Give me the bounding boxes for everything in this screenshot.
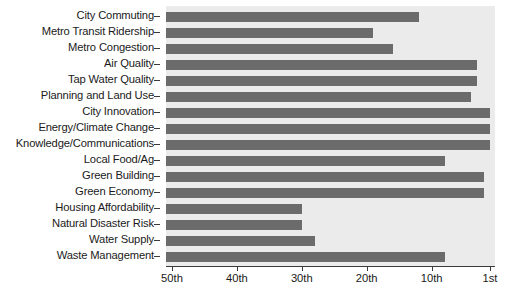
category-label: City Innovation <box>82 106 160 117</box>
bar <box>166 252 445 262</box>
category-label: Green Economy <box>75 186 160 197</box>
category-tick-mark <box>154 240 160 241</box>
category-label-row: Green Economy <box>0 184 160 200</box>
category-label: Housing Affordability <box>55 202 160 213</box>
bar <box>166 92 471 102</box>
category-tick-mark <box>154 160 160 161</box>
category-tick-mark <box>154 224 160 225</box>
category-tick-mark <box>154 96 160 97</box>
category-label-row: Natural Disaster Risk <box>0 216 160 232</box>
category-label: Planning and Land Use <box>41 90 160 101</box>
category-tick-mark <box>154 176 160 177</box>
bar <box>166 140 490 150</box>
bar <box>166 108 490 118</box>
category-tick-mark <box>154 48 160 49</box>
category-label-row: Waste Management <box>0 248 160 264</box>
plot-area <box>166 6 495 266</box>
category-label: Waste Management <box>57 250 160 261</box>
value-tick-label: 10th <box>421 273 443 284</box>
value-tick-label: 40th <box>226 273 248 284</box>
category-tick-mark <box>154 192 160 193</box>
category-label: Local Food/Ag <box>84 154 160 165</box>
value-axis-line <box>166 266 495 267</box>
value-tick-label: 50th <box>161 273 183 284</box>
category-tick-mark <box>154 128 160 129</box>
category-axis: City CommutingMetro Transit RidershipMet… <box>0 8 160 264</box>
bar <box>166 204 302 214</box>
category-label-row: Housing Affordability <box>0 200 160 216</box>
category-label-row: Local Food/Ag <box>0 152 160 168</box>
category-label-row: Metro Congestion <box>0 40 160 56</box>
category-label-row: Water Supply <box>0 232 160 248</box>
category-label: City Commuting <box>77 10 160 21</box>
category-label: Tap Water Quality <box>68 74 160 85</box>
category-label: Green Building <box>82 170 160 181</box>
value-tick-mark <box>367 266 368 271</box>
category-label: Air Quality <box>104 58 160 69</box>
value-tick-label: 20th <box>356 273 378 284</box>
category-label: Natural Disaster Risk <box>52 218 160 229</box>
value-axis: 50th40th30th20th10th1st <box>166 266 495 296</box>
bar <box>166 44 393 54</box>
category-label-row: Planning and Land Use <box>0 88 160 104</box>
category-tick-mark <box>154 208 160 209</box>
value-tick-label: 1st <box>483 273 498 284</box>
bar-chart: City CommutingMetro Transit RidershipMet… <box>0 0 514 303</box>
category-label: Energy/Climate Change <box>38 122 160 133</box>
bar <box>166 76 477 86</box>
category-label-row: Knowledge/Communications <box>0 136 160 152</box>
category-label-row: Metro Transit Ridership <box>0 24 160 40</box>
bar <box>166 220 302 230</box>
bar <box>166 236 315 246</box>
bar <box>166 28 373 38</box>
category-label-row: Green Building <box>0 168 160 184</box>
bar <box>166 172 484 182</box>
value-tick-mark <box>172 266 173 271</box>
category-tick-mark <box>154 32 160 33</box>
bar <box>166 124 490 134</box>
category-label: Metro Congestion <box>68 42 160 53</box>
category-tick-mark <box>154 256 160 257</box>
value-tick-mark <box>237 266 238 271</box>
category-label-row: City Innovation <box>0 104 160 120</box>
bar <box>166 188 484 198</box>
bar <box>166 156 445 166</box>
value-tick-mark <box>432 266 433 271</box>
bar <box>166 60 477 70</box>
category-label-row: Tap Water Quality <box>0 72 160 88</box>
value-tick-mark <box>490 266 491 271</box>
category-tick-mark <box>154 80 160 81</box>
category-tick-mark <box>154 16 160 17</box>
category-tick-mark <box>154 64 160 65</box>
bar <box>166 12 419 22</box>
value-tick-label: 30th <box>291 273 313 284</box>
category-label-row: Energy/Climate Change <box>0 120 160 136</box>
category-label-row: Air Quality <box>0 56 160 72</box>
category-label: Water Supply <box>89 234 160 245</box>
value-tick-mark <box>302 266 303 271</box>
category-label: Metro Transit Ridership <box>42 26 160 37</box>
category-label-row: City Commuting <box>0 8 160 24</box>
category-tick-mark <box>154 112 160 113</box>
category-tick-mark <box>154 144 160 145</box>
category-label: Knowledge/Communications <box>16 138 160 149</box>
